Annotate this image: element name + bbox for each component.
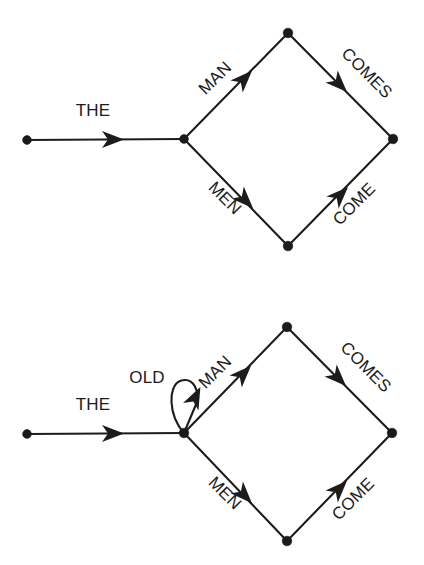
label-old: OLD	[129, 368, 165, 387]
label-come: COME	[328, 474, 378, 524]
node-end	[388, 134, 398, 144]
node-top	[283, 28, 293, 38]
edge-men	[184, 139, 288, 246]
node-bottom	[283, 241, 293, 251]
edge-men	[184, 433, 287, 541]
loop-path-old	[171, 380, 197, 433]
label-come: COME	[329, 179, 379, 229]
edge-the	[27, 139, 184, 140]
label-group: THE OLD MAN MEN COMES COME	[76, 338, 395, 524]
label-group: THE MAN MEN COMES COME	[76, 44, 396, 229]
label-men: MEN	[205, 178, 246, 219]
node-branch	[180, 135, 189, 144]
diagram-lattice-without-old: THE MAN MEN COMES COME	[23, 28, 398, 251]
node-branch	[179, 428, 189, 438]
node-top	[282, 322, 292, 332]
node-bottom	[282, 536, 292, 546]
label-the: THE	[76, 101, 111, 120]
label-the: THE	[76, 395, 111, 414]
label-men: MEN	[205, 473, 246, 514]
node-start	[23, 430, 32, 439]
lattice-diagram-svg: THE MAN MEN COMES COME	[0, 0, 424, 565]
node-end	[387, 428, 397, 438]
diagram-lattice-with-old: THE OLD MAN MEN COMES COME	[23, 322, 397, 546]
edge-the	[27, 433, 184, 434]
node-start	[23, 136, 32, 145]
figure-canvas: THE MAN MEN COMES COME	[0, 0, 424, 565]
